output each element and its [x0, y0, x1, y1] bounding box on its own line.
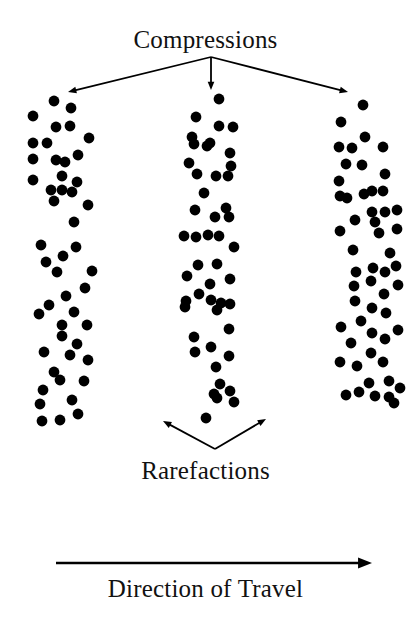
- annotation-arrow-line: [215, 422, 262, 449]
- particle-dot: [336, 322, 347, 333]
- particle-dot: [55, 375, 66, 386]
- direction-arrow-head: [358, 557, 372, 568]
- particle-dot: [61, 291, 72, 302]
- particle-dot: [39, 347, 50, 358]
- particle-dot: [211, 362, 222, 373]
- particle-dot: [352, 361, 363, 372]
- dot-cluster: [179, 94, 240, 424]
- particle-dot: [367, 328, 378, 339]
- particle-dot: [368, 263, 379, 274]
- particle-dot: [225, 386, 236, 397]
- particle-dot: [367, 207, 378, 218]
- particle-dot: [346, 338, 357, 349]
- annotation-arrow-line: [73, 57, 211, 91]
- particle-dot: [80, 283, 91, 294]
- particle-dot: [49, 196, 60, 207]
- particle-dot: [229, 397, 240, 408]
- particle-dot: [214, 94, 225, 105]
- particle-dot: [57, 185, 68, 196]
- particle-dot: [392, 205, 403, 216]
- particle-dot: [395, 383, 406, 394]
- particle-dot: [380, 207, 391, 218]
- particle-dot: [210, 212, 221, 223]
- particle-dot: [73, 150, 84, 161]
- particle-dot: [201, 413, 212, 424]
- particle-dot: [205, 138, 216, 149]
- particle-dot: [366, 348, 377, 359]
- annotation-arrow-head: [68, 87, 77, 93]
- particle-dot: [87, 266, 98, 277]
- annotation-arrow-head: [208, 82, 215, 90]
- particle-dot: [65, 350, 76, 361]
- particle-dot: [190, 347, 201, 358]
- annotation-arrow-head: [339, 87, 348, 93]
- dot-cluster: [334, 100, 406, 409]
- particle-dot: [194, 289, 205, 300]
- particle-dot: [225, 148, 236, 159]
- particle-dot: [334, 142, 345, 153]
- particle-dot: [84, 133, 95, 144]
- particle-dot: [211, 171, 222, 182]
- particle-dot: [223, 171, 234, 182]
- particle-dot: [46, 185, 57, 196]
- particle-dot: [205, 279, 216, 290]
- particle-dot: [381, 308, 392, 319]
- particle-dot: [379, 289, 390, 300]
- particle-dot: [224, 351, 235, 362]
- particle-dot: [212, 259, 223, 270]
- particle-dot: [385, 248, 396, 259]
- particle-dot: [350, 296, 361, 307]
- particle-dot: [392, 224, 403, 235]
- particle-dot: [335, 357, 346, 368]
- particle-dot: [393, 280, 404, 291]
- particle-dot: [179, 231, 190, 242]
- particle-dot: [60, 157, 71, 168]
- compressions-label: Compressions: [0, 25, 411, 54]
- particle-dot: [367, 303, 378, 314]
- particle-dot: [380, 334, 391, 345]
- particle-dot: [229, 242, 240, 253]
- annotation-arrow-head: [163, 421, 172, 428]
- particle-dot: [391, 261, 402, 272]
- particle-dot: [34, 309, 45, 320]
- particle-dot: [360, 132, 371, 143]
- particle-dot: [191, 232, 202, 243]
- annotation-arrow-line: [211, 57, 343, 91]
- particle-dot: [206, 295, 217, 306]
- longitudinal-wave-diagram: Compressions Rarefactions Direction of T…: [0, 0, 411, 626]
- particle-dot: [51, 155, 62, 166]
- particle-dot: [72, 339, 83, 350]
- dot-cluster: [28, 96, 98, 427]
- particle-dot: [57, 331, 68, 342]
- particle-dot: [83, 200, 94, 211]
- particle-dot: [393, 325, 404, 336]
- particle-dot: [193, 260, 204, 271]
- particle-dot: [212, 305, 223, 316]
- particle-dot: [73, 409, 84, 420]
- particle-dot: [69, 217, 80, 228]
- direction-of-travel-label: Direction of Travel: [0, 574, 411, 603]
- particle-dot: [228, 122, 239, 133]
- particle-dot: [79, 376, 90, 387]
- wave-canvas: [0, 0, 411, 626]
- particle-dot: [356, 316, 367, 327]
- particle-dot: [66, 103, 77, 114]
- particle-dot: [28, 175, 39, 186]
- particle-dot: [357, 160, 368, 171]
- particle-dot: [49, 96, 60, 107]
- particle-dot: [214, 231, 225, 242]
- particle-dot: [42, 138, 53, 149]
- particle-dot: [374, 228, 385, 239]
- particle-dot: [212, 393, 223, 404]
- particle-dot: [384, 376, 395, 387]
- annotation-arrow-head: [257, 419, 266, 426]
- particle-dot: [370, 391, 381, 402]
- particle-dot: [82, 320, 93, 331]
- particle-dot: [182, 271, 193, 282]
- particle-dot: [214, 121, 225, 132]
- particle-dot: [83, 355, 94, 366]
- particle-dot: [52, 267, 63, 278]
- particle-dot: [38, 385, 49, 396]
- particle-dot: [335, 226, 346, 237]
- particle-dot: [336, 117, 347, 128]
